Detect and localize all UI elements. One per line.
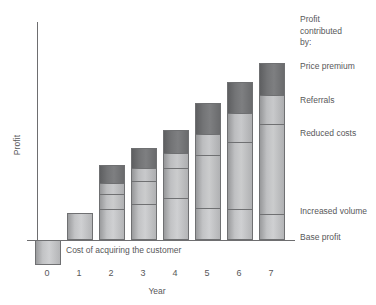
bar-segment-increased-volume [99,209,125,240]
bar-segment-increased-volume [259,214,285,240]
bar-segment-referrals [259,95,285,125]
x-tick-label-3: 3 [130,268,156,278]
bar-segment-price-premium [195,103,221,135]
y-axis-title: Profit [12,115,22,175]
bar-segment-reduced-costs [131,181,157,205]
bar-segment-price-premium [259,63,285,96]
bar-segment-increased-volume [195,208,221,240]
bar-segment-reduced-costs [99,194,125,210]
bar-segment-referrals [131,168,157,182]
x-tick-label-0: 0 [34,268,60,278]
bar-segment-referrals [227,113,253,143]
legend-title: Profit contributed by: [300,14,374,49]
bar-segment-reduced-costs [195,155,221,209]
x-tick-label-6: 6 [226,268,252,278]
bar-segment-reduced-costs [227,142,253,210]
bar-segment-referrals [163,153,189,169]
bar-segment-price-premium [163,130,189,154]
y-axis-line [37,22,38,258]
x-axis-title: Year [137,286,177,296]
bar-segment-increased-volume [227,209,253,240]
x-axis-line [27,240,295,241]
legend-title-line-2: contributed [300,26,374,38]
x-tick-label-4: 4 [162,268,188,278]
bar-segment-referrals [195,134,221,156]
legend-item-price-premium: Price premium [300,61,355,72]
bar-year-1 [67,213,93,240]
legend-item-base-profit: Base profit [300,232,341,243]
bar-segment-acquisition-cost [35,240,61,265]
x-tick-label-7: 7 [258,268,284,278]
acquisition-cost-annotation: Cost of acquiring the customer [66,245,181,255]
bar-year-7 [259,63,285,240]
bar-segment-reduced-costs [259,124,285,215]
legend-item-referrals: Referrals [300,95,334,106]
legend-item-reduced-costs: Reduced costs [300,128,356,139]
x-tick-label-1: 1 [66,268,92,278]
bar-segment-price-premium [99,165,125,184]
bar-segment-increased-volume [163,198,189,240]
bar-segment-price-premium [227,82,253,114]
bar-segment-price-premium [131,148,157,169]
bar-segment-increased-volume [131,204,157,240]
x-tick-label-2: 2 [98,268,124,278]
bar-year-2 [99,165,125,240]
bar-segment-reduced-costs [163,168,189,199]
chart-container: Profit Year 0 1 2 3 4 5 6 7 [0,0,376,305]
x-tick-label-5: 5 [194,268,220,278]
bar-year-0 [35,240,61,265]
legend-item-increased-volume: Increased volume [300,206,367,217]
bar-segment-base-profit [67,213,93,240]
legend-title-line-1: Profit [300,14,374,26]
bar-year-4 [163,130,189,240]
bar-year-3 [131,148,157,240]
bar-year-5 [195,103,221,240]
bar-year-6 [227,82,253,240]
legend-title-line-3: by: [300,37,374,49]
